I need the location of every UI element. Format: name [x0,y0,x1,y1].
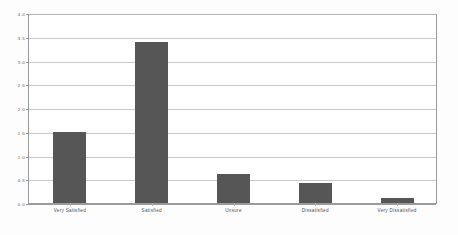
y-axis-tick-label: 3.0 [18,59,25,64]
y-axis-tick-label: 1.0 [18,154,25,159]
y-axis-tick-label: 1.5 [18,130,25,135]
x-axis-tick-label: Unsure [193,208,275,213]
x-axis-tick-label: Dissatisfied [274,208,356,213]
x-axis-tick-label: Very Dissatisfied [356,208,438,213]
bar[interactable] [299,183,332,203]
bar-chart: 0.00.51.01.52.02.53.03.54.0 Very Satisfi… [0,0,458,235]
x-axis-tick-label: Satisfied [111,208,193,213]
y-axis-tick-label: 3.5 [18,35,25,40]
y-axis-tick-label: 0.0 [18,202,25,207]
y-axis-tick-label: 2.5 [18,83,25,88]
bar-slot [274,14,356,203]
y-tick-mark [26,204,29,205]
bar[interactable] [217,174,250,203]
x-axis-tick-label: Very Satisfied [29,208,111,213]
x-tick-mark [315,203,316,206]
y-axis-tick-label: 0.5 [18,178,25,183]
bar[interactable] [53,132,86,203]
bar-slot [193,14,275,203]
y-axis-tick-label: 2.0 [18,107,25,112]
x-tick-mark [70,203,71,206]
bar[interactable] [135,42,168,204]
x-tick-mark [152,203,153,206]
y-axis-tick-label: 4.0 [18,12,25,17]
bar-slot [356,14,438,203]
bar-slot [29,14,111,203]
x-tick-mark [234,203,235,206]
plot-area: 0.00.51.01.52.02.53.03.54.0 Very Satisfi… [28,14,437,204]
gridline [29,204,436,205]
bar-slot [111,14,193,203]
x-tick-mark [397,203,398,206]
